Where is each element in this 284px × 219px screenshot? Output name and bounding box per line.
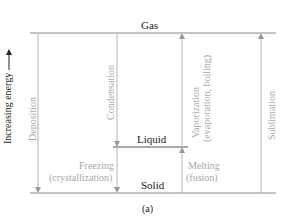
gas-label: Gas bbox=[141, 19, 158, 31]
sublimation-label: Sublimation bbox=[266, 91, 277, 140]
deposition-label: Deposition bbox=[27, 97, 38, 141]
melting-label-2: (fusion) bbox=[186, 172, 218, 183]
liquid-label: Liquid bbox=[137, 133, 166, 145]
freezing-label-1: Freezing bbox=[79, 160, 114, 171]
melting-label-1: Melting bbox=[188, 160, 220, 171]
figure-caption: (a) bbox=[142, 203, 153, 214]
vaporization-label-2: (evaporation, boiling) bbox=[201, 55, 212, 142]
solid-label: Solid bbox=[141, 179, 164, 191]
condensation-label: Condensation bbox=[105, 65, 116, 120]
freezing-label-2: (crystallization) bbox=[49, 172, 112, 183]
energy-axis-label: Increasing energy bbox=[2, 73, 13, 144]
phase-change-diagram: Gas Liquid Solid (a) Increasing energy D… bbox=[0, 0, 284, 219]
vaporization-label-1: Vaporization bbox=[190, 87, 201, 138]
